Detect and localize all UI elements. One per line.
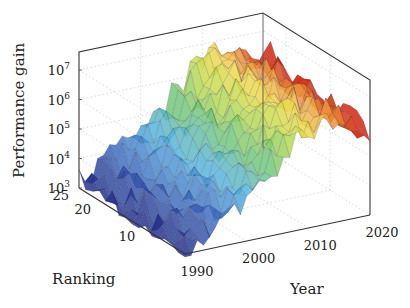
z-axis-ticks: 103104105106107 [48,61,82,196]
svg-text:2010: 2010 [304,238,337,253]
svg-text:2020: 2020 [365,225,398,240]
svg-text:106: 106 [48,91,71,108]
svg-text:25: 25 [52,188,69,203]
svg-text:2000: 2000 [242,251,275,266]
svg-text:10: 10 [119,229,136,244]
z-axis-label: Performance gain [10,43,28,178]
x-axis-label: Year [289,280,324,298]
svg-text:1990: 1990 [180,264,213,279]
y-axis-label: Ranking [52,270,116,288]
svg-text:105: 105 [48,120,71,137]
surface-chart: 103104105106107 1990200020102020 102025 … [0,0,410,308]
svg-text:104: 104 [48,150,71,167]
svg-text:20: 20 [75,202,92,217]
svg-text:107: 107 [48,61,71,78]
x-axis-ticks: 1990200020102020 [180,225,398,279]
